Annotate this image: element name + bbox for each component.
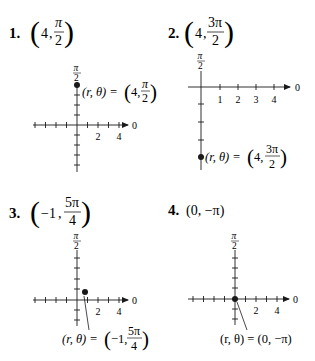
plotted-point — [198, 154, 204, 160]
axis-label-zero: 0 — [295, 82, 300, 93]
problem-3: 3. ( −1 , 5π 4 ) π 2 0 2 4 (r, θ) = ( −1… — [9, 195, 149, 353]
tick-label: 4 — [272, 94, 277, 105]
axis-label-pi-over-2-num: π — [232, 231, 237, 241]
theta-denominator: 2 — [212, 33, 219, 48]
theta-numerator: 3π — [208, 15, 222, 30]
polar-exercises-figure: 1. ( 4 , π 2 ) π 2 0 2 4 (r, θ — [0, 0, 315, 361]
problem-number: 3. — [9, 205, 21, 221]
leader-line — [84, 296, 89, 330]
axis-label-pi-over-2-den: 2 — [74, 73, 79, 83]
theta-denominator: 2 — [55, 33, 62, 48]
tick-label: 4 — [117, 131, 122, 142]
svg-text:4: 4 — [131, 339, 137, 353]
axis-label-pi-over-2-den: 2 — [232, 241, 237, 251]
axis-label-pi-over-2-num: π — [198, 51, 203, 61]
svg-text:5π: 5π — [128, 324, 140, 338]
point-annotation-lhs: (r, θ) = — [62, 332, 98, 346]
problem-2: 2. ( 4 , 3π 2 ) π 2 0 1 2 3 4 (r, θ) = (… — [168, 15, 300, 171]
svg-text:π: π — [142, 77, 149, 91]
problem-number: 2. — [168, 25, 180, 41]
svg-text:,: , — [58, 206, 62, 221]
plotted-point — [82, 289, 88, 295]
right-paren: ) — [81, 195, 91, 229]
theta-numerator: π — [55, 15, 63, 30]
left-paren: ( — [30, 195, 40, 229]
point-r: 4 — [195, 26, 202, 41]
svg-text:(: ( — [247, 145, 254, 169]
svg-text:3π: 3π — [266, 142, 278, 156]
svg-text:): ) — [150, 80, 157, 104]
problem-number: 1. — [9, 25, 21, 41]
tick-label: 4 — [117, 306, 122, 317]
svg-text:): ) — [142, 327, 149, 351]
svg-text:,: , — [49, 26, 53, 41]
svg-text:2: 2 — [142, 91, 148, 105]
problem-4: 4. (0, −π) π 2 0 2 4 (r, θ) = (0, −π) — [168, 202, 298, 346]
tick-label: 2 — [96, 306, 101, 317]
svg-text:(: ( — [124, 80, 131, 104]
svg-text:4,: 4, — [131, 85, 140, 99]
tick-label: 4 — [275, 305, 280, 316]
problem-1: 1. ( 4 , π 2 ) π 2 0 2 4 (r, θ — [9, 15, 157, 172]
tick-label: 3 — [254, 94, 259, 105]
leader-line — [237, 302, 247, 330]
axis-label-zero: 0 — [132, 295, 137, 306]
plotted-point — [74, 82, 80, 88]
right-paren: ) — [224, 15, 234, 49]
svg-text:−1,: −1, — [111, 332, 127, 346]
svg-text:2: 2 — [269, 157, 275, 171]
left-paren: ( — [30, 15, 40, 49]
axis-label-zero: 0 — [293, 294, 298, 305]
plotted-point — [232, 296, 238, 302]
point-text: (0, −π) — [186, 203, 225, 219]
svg-text:4,: 4, — [254, 150, 263, 164]
theta-denominator: 4 — [69, 213, 76, 228]
axis-label-pi-over-2-den: 2 — [74, 241, 79, 251]
svg-text:): ) — [280, 145, 287, 169]
left-paren: ( — [184, 15, 194, 49]
problem-number: 4. — [168, 202, 180, 218]
point-annotation-lhs: (r, θ) = — [82, 85, 118, 99]
tick-label: 1 — [218, 94, 223, 105]
svg-text:(: ( — [104, 327, 111, 351]
tick-label: 2 — [254, 305, 259, 316]
axis-label-pi-over-2-num: π — [74, 231, 79, 241]
polar-axes — [33, 250, 128, 326]
axis-label-zero: 0 — [132, 120, 137, 131]
right-paren: ) — [64, 15, 74, 49]
point-r: 4 — [41, 26, 48, 41]
point-r: −1 — [41, 206, 56, 221]
theta-numerator: 5π — [65, 195, 79, 210]
axis-label-pi-over-2-den: 2 — [198, 61, 203, 71]
svg-text:,: , — [203, 26, 207, 41]
tick-label: 2 — [96, 131, 101, 142]
axis-label-pi-over-2-num: π — [74, 63, 79, 73]
point-annotation: (r, θ) = (0, −π) — [220, 332, 292, 346]
tick-label: 2 — [236, 94, 241, 105]
point-annotation-lhs: (r, θ) = — [205, 150, 241, 164]
